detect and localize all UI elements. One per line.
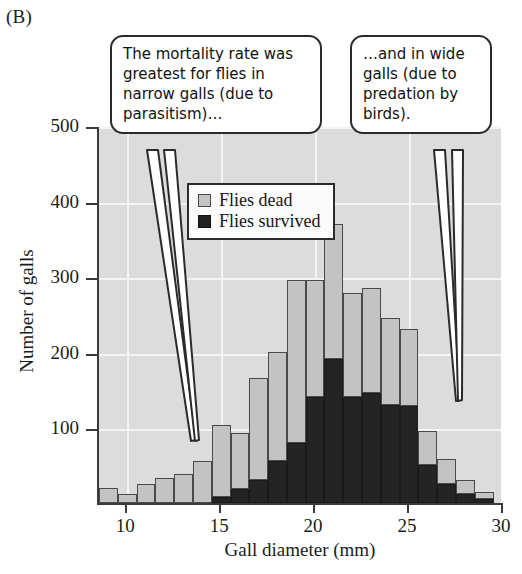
x-tick-label: 25 (377, 515, 437, 537)
histogram-bar (437, 127, 456, 503)
histogram-bar (381, 127, 400, 503)
bar-segment-survived (287, 443, 306, 503)
bar-segment-dead (400, 329, 419, 406)
x-tick-label: 20 (283, 515, 343, 537)
bar-segment-dead (381, 318, 400, 405)
bar-segment-dead (268, 352, 287, 462)
bar-segment-dead (118, 494, 137, 503)
legend: Flies dead Flies survived (187, 183, 335, 240)
bar-segment-dead (99, 488, 118, 503)
y-tick-mark (86, 354, 97, 356)
bar-segment-dead (456, 480, 475, 494)
bar-segment-survived (362, 393, 381, 503)
y-tick-mark (86, 127, 97, 129)
histogram-bar (475, 127, 494, 503)
x-tick-label: 15 (189, 515, 249, 537)
legend-swatch-dead-icon (198, 194, 211, 207)
callout-left: The mortality rate was greatest for flie… (110, 35, 322, 134)
y-tick-label: 500 (0, 115, 79, 137)
bar-segment-dead (212, 425, 231, 497)
histogram-bar (99, 127, 118, 503)
legend-label-survived: Flies survived (219, 211, 321, 232)
histogram-bar (155, 127, 174, 503)
bar-segment-dead (343, 293, 362, 397)
bar-segment-survived (231, 489, 250, 503)
x-tick-mark (313, 505, 315, 513)
y-axis-title: Number of galls (16, 201, 38, 421)
bar-segment-survived (456, 494, 475, 503)
bar-segment-survived (343, 397, 362, 503)
x-tick-mark (125, 505, 127, 513)
x-tick-mark (407, 505, 409, 513)
x-axis-line (97, 503, 503, 505)
bar-segment-dead (137, 484, 156, 503)
y-tick-mark (86, 429, 97, 431)
bar-segment-dead (287, 280, 306, 443)
bar-segment-survived (306, 397, 325, 503)
legend-item-dead: Flies dead (198, 190, 324, 211)
bar-segment-survived (249, 480, 268, 503)
y-tick-label: 200 (0, 342, 79, 364)
bar-segment-survived (324, 359, 343, 503)
legend-item-survived: Flies survived (198, 211, 324, 232)
bar-segment-survived (400, 406, 419, 503)
bar-segment-dead (193, 461, 212, 503)
y-tick-label: 300 (0, 266, 79, 288)
bar-segment-dead (155, 478, 174, 503)
bar-segment-dead (362, 288, 381, 394)
bar-segment-dead (324, 224, 343, 359)
bar-segment-dead (418, 431, 437, 465)
y-tick-label: 100 (0, 417, 79, 439)
bar-segment-dead (306, 280, 325, 397)
histogram-bar (362, 127, 381, 503)
histogram-bar (400, 127, 419, 503)
bar-segment-survived (418, 465, 437, 503)
histogram-bar (343, 127, 362, 503)
panel-label: (B) (6, 6, 32, 28)
x-tick-mark (501, 505, 503, 513)
bar-segment-survived (268, 461, 287, 503)
histogram-bar (137, 127, 156, 503)
callout-right: …and in wide galls (due to predation by … (350, 35, 492, 134)
histogram-bar (418, 127, 437, 503)
bar-segment-dead (174, 474, 193, 503)
x-tick-mark (219, 505, 221, 513)
legend-swatch-survived-icon (198, 215, 211, 228)
x-tick-label: 10 (95, 515, 155, 537)
histogram-bar (118, 127, 137, 503)
bar-segment-dead (249, 378, 268, 480)
y-tick-mark (86, 278, 97, 280)
histogram-bar (456, 127, 475, 503)
figure-panel-b: (B) Number of galls 100200300400500 1015… (0, 0, 522, 574)
y-tick-mark (86, 203, 97, 205)
y-tick-label: 400 (0, 191, 79, 213)
legend-label-dead: Flies dead (219, 190, 293, 211)
bar-segment-survived (437, 484, 456, 503)
bar-segment-dead (475, 492, 494, 499)
bar-segment-survived (381, 405, 400, 503)
x-tick-label: 30 (471, 515, 522, 537)
bar-segment-dead (437, 459, 456, 484)
x-axis-title: Gall diameter (mm) (97, 539, 503, 561)
bar-segment-dead (231, 433, 250, 490)
